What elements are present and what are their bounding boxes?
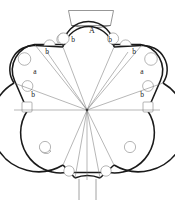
label-b-top-left: b xyxy=(71,35,75,44)
entrance-jambs xyxy=(79,179,96,200)
label-A: A xyxy=(89,26,95,35)
label-b-upper-left: b xyxy=(45,47,49,56)
label-b-lower-right: b xyxy=(140,90,144,99)
label-b-upper-right: b xyxy=(132,47,136,56)
label-b-lower-left: b xyxy=(31,90,35,99)
label-b-top-right: b xyxy=(108,35,112,44)
bottom-entrance xyxy=(75,176,100,179)
main-outline xyxy=(12,26,162,172)
center-point xyxy=(86,109,89,112)
architectural-plan-figure: A b b b b a a b b xyxy=(0,0,175,203)
plan-drawing: A b b b b a a b b xyxy=(0,0,175,203)
